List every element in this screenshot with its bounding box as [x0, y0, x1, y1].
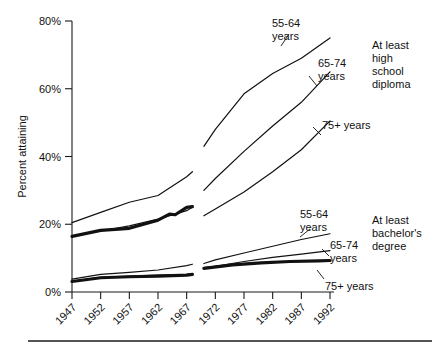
group-title-bachelor-title-at-least: At leastbachelor'sdegree [372, 214, 422, 252]
y-tick-label: 60% [39, 83, 61, 95]
leader-hs-65-74 [309, 76, 317, 86]
series-emphasis-65-74-years-high-school-emphasis-segment [72, 207, 192, 237]
axes-layer: 0%20%40%60%80%Percent attaining194719521… [16, 15, 336, 327]
group-title-high-school-title-at-least: At leasthighschooldiploma [372, 39, 411, 90]
x-tick-label: 1962 [139, 301, 165, 327]
x-tick-label: 1957 [110, 301, 136, 327]
series-high-school-65-74-years-segment [204, 72, 330, 191]
series-label-high-school-65-74: 65-74years [318, 57, 346, 82]
y-tick-label: 80% [39, 15, 61, 27]
y-axis-title: Percent attaining [16, 115, 28, 198]
x-tick-label: 1967 [167, 301, 193, 327]
x-tick-label: 1977 [225, 301, 251, 327]
series-label-high-school-75+-years: 75+ years [322, 119, 371, 131]
y-tick-label: 20% [39, 218, 61, 230]
x-tick-label: 1992 [311, 301, 337, 327]
series-label-bachelor-75+-years: 75+ years [325, 280, 374, 292]
series-label-bachelor-55-64: 55-64years [300, 208, 328, 233]
series-label-bachelor-65-74: 65-74years [330, 239, 358, 264]
series-layer [72, 38, 330, 282]
leader-ba-75-plus [317, 270, 324, 279]
x-tick-label: 1952 [81, 301, 107, 327]
series-bachelor-55-64-years-segment [204, 234, 330, 264]
chart-figure: 0%20%40%60%80%Percent attaining194719521… [0, 0, 440, 349]
y-tick-label: 0% [45, 286, 61, 298]
y-tick-label: 40% [39, 151, 61, 163]
x-tick-label: 1972 [196, 301, 222, 327]
series-high-school-75-years-segment [204, 121, 330, 216]
series-emphasis-55-64-years-bachelor-emphasis-right-segment [204, 261, 330, 269]
x-tick-label: 1987 [282, 301, 308, 327]
series-emphasis-65-74-years-bachelor-emphasis-segment [72, 274, 192, 281]
x-tick-label: 1947 [53, 301, 79, 327]
x-tick-label: 1982 [253, 301, 279, 327]
leader-ba-65-74 [322, 249, 329, 256]
education-attainment-line-chart: 0%20%40%60%80%Percent attaining194719521… [0, 0, 440, 349]
